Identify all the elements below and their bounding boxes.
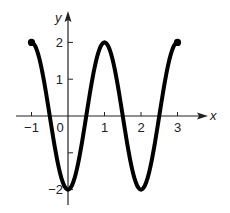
closed-endpoint-dot bbox=[28, 39, 35, 46]
y-axis-label: y bbox=[54, 10, 63, 25]
cosine-graph: −1012321−2 x y bbox=[0, 0, 230, 213]
x-tick-label: 3 bbox=[174, 120, 181, 135]
y-tick-label: 1 bbox=[56, 72, 63, 87]
x-tick-label: 1 bbox=[101, 120, 108, 135]
y-tick-label: −2 bbox=[48, 182, 63, 197]
x-tick-label: 2 bbox=[137, 120, 144, 135]
x-tick-label: 0 bbox=[56, 120, 63, 135]
x-tick-label: −1 bbox=[24, 120, 39, 135]
y-tick-label: 2 bbox=[56, 35, 63, 50]
x-axis-label: x bbox=[209, 108, 217, 123]
closed-endpoint-dot bbox=[174, 39, 181, 46]
